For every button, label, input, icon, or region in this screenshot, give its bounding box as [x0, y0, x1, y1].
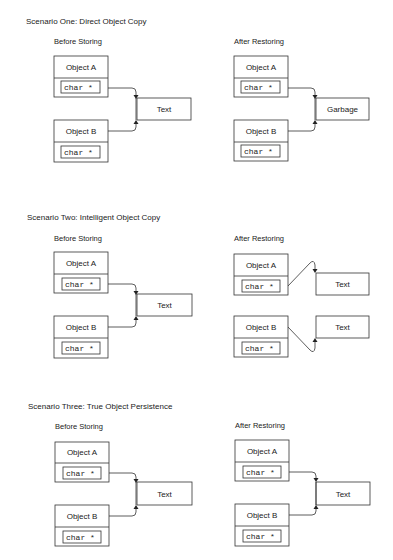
pointer-field: char *	[66, 533, 95, 542]
persistence-diagram: Scenario One: Direct Object Copy Before …	[0, 0, 393, 560]
garbage-label: Garbage	[327, 105, 359, 114]
text-label: Text	[157, 105, 172, 114]
pointer-field: char *	[245, 282, 274, 291]
text-box: Text	[137, 482, 192, 505]
pointer-arrow-b	[108, 319, 136, 327]
panel-label: After Restoring	[235, 421, 285, 430]
object-b-box: Object B char *	[54, 316, 108, 358]
pointer-arrow-a	[289, 472, 316, 479]
text-box: Text	[137, 294, 192, 316]
scenario-three: Scenario Three: True Object Persistence …	[28, 402, 370, 546]
object-a-label: Object A	[246, 261, 277, 270]
object-a-box: Object A char *	[55, 442, 109, 482]
text-label: Text	[157, 301, 172, 310]
object-a-box: Object A char *	[234, 254, 288, 295]
object-b-box: Object B char *	[234, 316, 288, 357]
object-a-label: Object A	[66, 259, 97, 268]
panel-label: After Restoring	[234, 234, 284, 243]
text-label: Text	[335, 323, 350, 332]
scenario-title: Scenario One: Direct Object Copy	[26, 17, 147, 26]
object-a-box: Object A char *	[54, 56, 108, 97]
text-label: Text	[157, 490, 172, 499]
object-b-box: Object B char *	[54, 120, 108, 162]
before-storing-panel: Before Storing Object A char * Object B …	[55, 422, 192, 546]
garbage-box: Garbage	[316, 98, 369, 120]
after-restoring-panel: After Restoring Object A char * Text Obj…	[234, 234, 369, 357]
text-box: Text	[137, 98, 191, 120]
object-a-box: Object A char *	[234, 56, 288, 97]
object-a-label: Object A	[67, 448, 98, 457]
before-storing-panel: Before Storing Object A char * Object B …	[54, 234, 192, 358]
text-box-a: Text	[316, 273, 369, 295]
pointer-field: char *	[246, 468, 275, 477]
before-storing-panel: Before Storing Object A char * Object B …	[54, 37, 191, 162]
object-a-label: Object A	[66, 63, 97, 72]
scenario-title: Scenario Three: True Object Persistence	[28, 402, 173, 411]
pointer-arrow-b	[288, 123, 315, 131]
text-label: Text	[335, 280, 350, 289]
pointer-field: char *	[64, 148, 93, 157]
object-b-box: Object B char *	[235, 504, 289, 546]
panel-label: Before Storing	[55, 422, 103, 431]
text-label: Text	[336, 490, 351, 499]
object-b-box: Object B char *	[234, 120, 288, 161]
scenario-title: Scenario Two: Intelligent Object Copy	[27, 213, 160, 222]
pointer-field: char *	[65, 344, 94, 353]
pointer-arrow-a	[108, 284, 136, 292]
pointer-arrow-a	[108, 88, 136, 96]
scenario-one: Scenario One: Direct Object Copy Before …	[26, 17, 369, 162]
object-b-label: Object B	[66, 127, 97, 136]
object-b-label: Object B	[246, 127, 277, 136]
pointer-arrow-b	[288, 327, 315, 352]
object-a-box: Object A char *	[235, 440, 289, 481]
pointer-arrow-b	[289, 508, 316, 515]
object-a-label: Object A	[246, 63, 277, 72]
object-a-label: Object A	[247, 447, 278, 456]
pointer-field: char *	[64, 83, 93, 92]
object-b-box: Object B char *	[55, 505, 109, 546]
pointer-field: char *	[244, 147, 273, 156]
pointer-field: char *	[245, 344, 274, 353]
object-a-box: Object A char *	[54, 252, 108, 293]
pointer-arrow-b	[108, 123, 136, 131]
panel-label: After Restoring	[234, 37, 284, 46]
scenario-two: Scenario Two: Intelligent Object Copy Be…	[27, 213, 369, 358]
after-restoring-panel: After Restoring Object A char * Object B…	[235, 421, 370, 546]
after-restoring-panel: After Restoring Object A char * Object B…	[234, 37, 369, 161]
pointer-field: char *	[246, 532, 275, 541]
pointer-field: char *	[66, 469, 95, 478]
object-b-label: Object B	[246, 323, 277, 332]
pointer-field: char *	[65, 280, 94, 289]
text-box: Text	[316, 482, 370, 505]
object-b-label: Object B	[66, 323, 97, 332]
pointer-arrow-a	[109, 473, 136, 480]
pointer-arrow-a	[288, 88, 315, 96]
text-box-b: Text	[316, 316, 369, 338]
pointer-arrow-a	[288, 261, 315, 286]
panel-label: Before Storing	[54, 234, 102, 243]
object-b-label: Object B	[67, 512, 98, 521]
panel-label: Before Storing	[54, 37, 102, 46]
pointer-arrow-b	[109, 508, 136, 516]
object-b-label: Object B	[247, 511, 278, 520]
pointer-field: char *	[244, 83, 273, 92]
